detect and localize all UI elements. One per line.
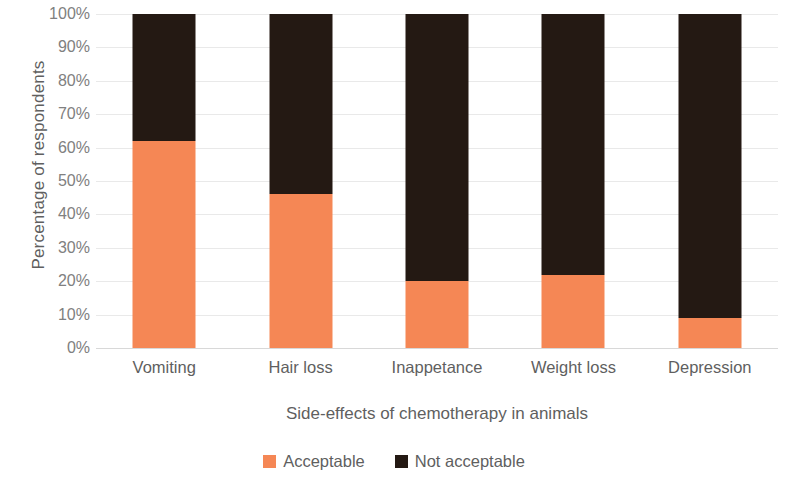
- bar-segment-acceptable[interactable]: [678, 318, 741, 348]
- bar-segment-not-acceptable[interactable]: [269, 14, 332, 194]
- x-axis-tick-label: Hair loss: [269, 356, 333, 378]
- bar-group: [96, 14, 232, 348]
- x-axis-tick-label: Vomiting: [133, 356, 196, 378]
- legend-item[interactable]: Acceptable: [263, 452, 365, 471]
- bar-segment-not-acceptable[interactable]: [542, 14, 605, 275]
- y-axis-tick-label: 40%: [28, 206, 90, 222]
- x-axis-tick-label: Weight loss: [531, 356, 616, 378]
- y-axis-tick-label: 10%: [28, 307, 90, 323]
- chart-legend: AcceptableNot acceptable: [0, 452, 788, 471]
- bar-segment-not-acceptable[interactable]: [678, 14, 741, 318]
- bar-segment-acceptable[interactable]: [542, 275, 605, 348]
- bar-segment-not-acceptable[interactable]: [405, 14, 468, 281]
- legend-label: Not acceptable: [415, 452, 525, 471]
- stacked-bar[interactable]: [542, 14, 605, 348]
- x-axis-tick-label: Depression: [668, 356, 751, 378]
- bar-series-container: [96, 14, 778, 348]
- y-axis-tick-label: 30%: [28, 240, 90, 256]
- gridline: [96, 348, 778, 349]
- stacked-bar[interactable]: [269, 14, 332, 348]
- legend-swatch-icon: [395, 455, 408, 468]
- bar-group: [232, 14, 368, 348]
- y-axis-tick-label: 50%: [28, 173, 90, 189]
- bar-group: [642, 14, 778, 348]
- y-axis-tick-label: 20%: [28, 273, 90, 289]
- legend-label: Acceptable: [283, 452, 365, 471]
- y-axis-tick-label: 80%: [28, 73, 90, 89]
- x-axis-title: Side-effects of chemotherapy in animals: [96, 404, 778, 424]
- plot-area: [96, 14, 778, 348]
- bar-group: [369, 14, 505, 348]
- bar-group: [505, 14, 641, 348]
- y-axis-tick-label: 90%: [28, 39, 90, 55]
- bar-segment-not-acceptable[interactable]: [133, 14, 196, 141]
- y-axis-tick-label: 100%: [28, 6, 90, 22]
- legend-item[interactable]: Not acceptable: [395, 452, 525, 471]
- legend-swatch-icon: [263, 455, 276, 468]
- y-axis-tick-label: 60%: [28, 140, 90, 156]
- stacked-bar-chart: Percentage of respondents 100%90%80%70%6…: [0, 0, 788, 485]
- x-axis-tick-label: Inappetance: [392, 356, 483, 378]
- stacked-bar[interactable]: [405, 14, 468, 348]
- y-axis-tick-label: 0%: [28, 340, 90, 356]
- bar-segment-acceptable[interactable]: [405, 281, 468, 348]
- bar-segment-acceptable[interactable]: [133, 141, 196, 348]
- stacked-bar[interactable]: [678, 14, 741, 348]
- x-axis-tick-labels: VomitingHair lossInappetanceWeight lossD…: [96, 356, 778, 386]
- y-axis-tick-labels: 100%90%80%70%60%50%40%30%20%10%0%: [28, 0, 90, 362]
- bar-segment-acceptable[interactable]: [269, 194, 332, 348]
- stacked-bar[interactable]: [133, 14, 196, 348]
- y-axis-tick-label: 70%: [28, 106, 90, 122]
